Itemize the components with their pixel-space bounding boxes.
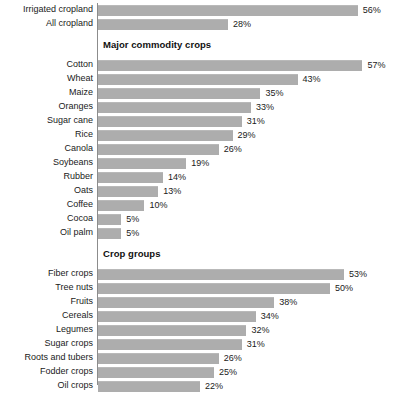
bar-category-label: Oil crops xyxy=(0,380,93,391)
bar-value-label: 13% xyxy=(163,186,181,197)
bar xyxy=(98,339,242,350)
bar-value-label: 56% xyxy=(363,5,381,16)
bar-row: Wheat43% xyxy=(0,72,400,86)
bar-category-label: Oranges xyxy=(0,101,93,112)
bar xyxy=(98,74,298,85)
bar xyxy=(98,283,330,294)
bar-value-label: 50% xyxy=(335,283,353,294)
bar-row: Cereals34% xyxy=(0,309,400,323)
bar-track: 35% xyxy=(98,88,400,99)
bar-row: Sugar cane31% xyxy=(0,114,400,128)
bar-value-label: 22% xyxy=(205,381,223,392)
bar xyxy=(98,353,219,364)
bar-track: 26% xyxy=(98,144,400,155)
bar-value-label: 32% xyxy=(251,325,269,336)
bar-value-label: 57% xyxy=(367,60,385,71)
bar-value-label: 26% xyxy=(224,353,242,364)
bar-category-label: Oats xyxy=(0,185,93,196)
bar xyxy=(98,325,246,336)
bar-value-label: 19% xyxy=(191,158,209,169)
bar-track: 34% xyxy=(98,311,400,322)
bar-row: Rice29% xyxy=(0,128,400,142)
bar-category-label: Soybeans xyxy=(0,157,93,168)
bar-category-label: Roots and tubers xyxy=(0,352,93,363)
bar-track: 28% xyxy=(98,19,400,30)
bar-track: 25% xyxy=(98,367,400,378)
bar-track: 31% xyxy=(98,339,400,350)
bar-category-label: Wheat xyxy=(0,73,93,84)
bar-track: 32% xyxy=(98,325,400,336)
bar xyxy=(98,5,358,16)
bar-track: 43% xyxy=(98,74,400,85)
bar-row: Legumes32% xyxy=(0,323,400,337)
bar-track: 38% xyxy=(98,297,400,308)
bar-category-label: Rubber xyxy=(0,171,93,182)
bar-category-label: Oil palm xyxy=(0,227,93,238)
bar-row: Oranges33% xyxy=(0,100,400,114)
section-header: Crop groups xyxy=(0,246,400,264)
bar-track: 31% xyxy=(98,116,400,127)
chart-section: Crop groupsFiber crops53%Tree nuts50%Fru… xyxy=(0,246,400,393)
bar-track: 29% xyxy=(98,130,400,141)
bar xyxy=(98,116,242,127)
bar-category-label: Legumes xyxy=(0,324,93,335)
bar-value-label: 29% xyxy=(238,130,256,141)
bar-category-label: Irrigated cropland xyxy=(0,4,93,15)
bar-track: 19% xyxy=(98,158,400,169)
bar-track: 33% xyxy=(98,102,400,113)
bar-category-label: Cereals xyxy=(0,310,93,321)
bar xyxy=(98,297,274,308)
bar xyxy=(98,269,344,280)
bar-row: Sugar crops31% xyxy=(0,337,400,351)
bar-track: 56% xyxy=(98,5,400,16)
bar-row: Fruits38% xyxy=(0,295,400,309)
bar-row: Cocoa5% xyxy=(0,212,400,226)
bar-row: Fodder crops25% xyxy=(0,365,400,379)
bar-track: 5% xyxy=(98,214,400,225)
bar xyxy=(98,311,256,322)
bar-value-label: 5% xyxy=(126,228,139,239)
bar-track: 5% xyxy=(98,228,400,239)
bar xyxy=(98,158,186,169)
bar xyxy=(98,130,233,141)
bar-value-label: 34% xyxy=(261,311,279,322)
section-header: Major commodity crops xyxy=(0,37,400,55)
bar-value-label: 26% xyxy=(224,144,242,155)
bar-row: Oats13% xyxy=(0,184,400,198)
bar-row: Roots and tubers26% xyxy=(0,351,400,365)
bar-value-label: 43% xyxy=(303,74,321,85)
bar-track: 13% xyxy=(98,186,400,197)
bar-category-label: Sugar cane xyxy=(0,115,93,126)
bar-value-label: 14% xyxy=(168,172,186,183)
chart-section: Major commodity cropsCotton57%Wheat43%Ma… xyxy=(0,37,400,240)
bar xyxy=(98,102,251,113)
bar-row: Irrigated cropland56% xyxy=(0,3,400,17)
bar xyxy=(98,88,260,99)
bar-category-label: Fruits xyxy=(0,296,93,307)
chart-section: Irrigated cropland56%All cropland28% xyxy=(0,3,400,31)
bar xyxy=(98,381,200,392)
bar xyxy=(98,200,144,211)
bar xyxy=(98,60,362,71)
bar-row: Fiber crops53% xyxy=(0,267,400,281)
bar-value-label: 5% xyxy=(126,214,139,225)
bar-category-label: All cropland xyxy=(0,18,93,29)
bar xyxy=(98,144,219,155)
bar-category-label: Tree nuts xyxy=(0,282,93,293)
section-header-label: Crop groups xyxy=(103,248,161,259)
bar-value-label: 35% xyxy=(265,88,283,99)
bar-value-label: 10% xyxy=(149,200,167,211)
bar-row: Rubber14% xyxy=(0,170,400,184)
bar-category-label: Sugar crops xyxy=(0,338,93,349)
bar-track: 26% xyxy=(98,353,400,364)
bar-row: Maize35% xyxy=(0,86,400,100)
bar-category-label: Canola xyxy=(0,143,93,154)
bar-value-label: 25% xyxy=(219,367,237,378)
bar-track: 50% xyxy=(98,283,400,294)
bar-value-label: 33% xyxy=(256,102,274,113)
bar-track: 22% xyxy=(98,381,400,392)
bar-row: Coffee10% xyxy=(0,198,400,212)
bar xyxy=(98,228,121,239)
bar-category-label: Cotton xyxy=(0,59,93,70)
